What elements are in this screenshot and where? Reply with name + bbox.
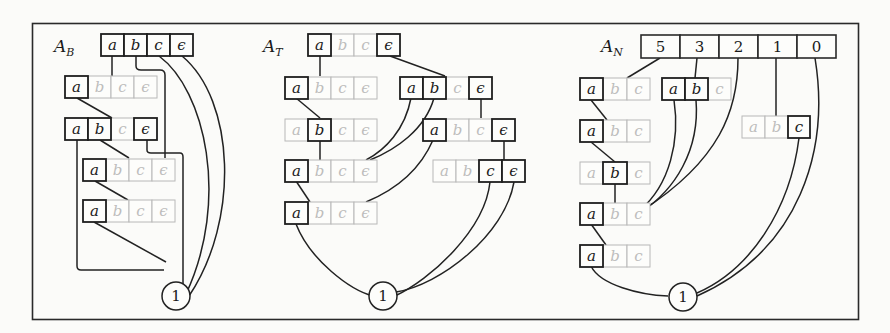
svg-text:5: 5 [656, 38, 666, 56]
svg-text:b: b [315, 121, 325, 139]
svg-text:c: c [118, 120, 127, 138]
svg-text:a: a [292, 162, 301, 180]
svg-text:a: a [669, 80, 678, 98]
panel-ab: AB a b c ϵ b c ϵ a c a [52, 34, 225, 310]
svg-text:a: a [108, 36, 117, 54]
node-at-4: b c a ϵ [423, 119, 515, 141]
svg-text:1: 1 [171, 287, 181, 305]
svg-text:b: b [463, 162, 473, 180]
svg-text:ϵ: ϵ [476, 79, 485, 97]
svg-text:a: a [72, 78, 81, 96]
svg-text:2: 2 [734, 38, 744, 56]
node-ab-4: b c ϵ a [83, 200, 175, 222]
svg-text:c: c [338, 162, 347, 180]
node-ab-1: b c ϵ a [65, 76, 157, 98]
svg-text:a: a [407, 79, 416, 97]
svg-text:c: c [118, 78, 127, 96]
svg-text:ϵ: ϵ [361, 162, 370, 180]
svg-text:c: c [634, 80, 643, 98]
svg-text:b: b [95, 120, 105, 138]
node-an-1: b c a [580, 78, 650, 100]
panel-title-at: AT [261, 36, 284, 59]
svg-text:b: b [131, 36, 141, 54]
svg-text:a: a [292, 79, 301, 97]
sink-node-an: 1 [669, 283, 697, 311]
node-at-3: a c ϵ b [285, 119, 377, 141]
node-at-5: b c ϵ a [285, 160, 377, 182]
svg-text:c: c [486, 162, 495, 180]
svg-text:b: b [772, 118, 782, 136]
svg-text:a: a [440, 162, 449, 180]
svg-text:c: c [795, 118, 804, 136]
node-an-4: a b c [742, 116, 810, 138]
svg-text:c: c [715, 80, 724, 98]
svg-text:a: a [315, 36, 324, 54]
svg-text:b: b [610, 247, 620, 265]
svg-text:a: a [587, 247, 596, 265]
svg-text:a: a [587, 80, 596, 98]
svg-text:ϵ: ϵ [361, 79, 370, 97]
node-an-3: b c a [580, 120, 650, 142]
node-ab-3: b c ϵ a [83, 159, 175, 181]
svg-text:b: b [315, 162, 325, 180]
node-at-root: b c a ϵ [308, 34, 400, 56]
svg-text:ϵ: ϵ [361, 121, 370, 139]
node-an-root: 5 3 2 1 0 [641, 35, 836, 58]
svg-text:b: b [95, 78, 105, 96]
svg-text:c: c [136, 202, 145, 220]
svg-text:ϵ: ϵ [159, 202, 168, 220]
svg-text:b: b [610, 80, 620, 98]
svg-text:a: a [90, 202, 99, 220]
svg-text:a: a [587, 205, 596, 223]
panel-an: AN 5 3 2 1 0 b c a [580, 35, 836, 311]
node-at-2: c a b ϵ [400, 77, 492, 99]
svg-text:b: b [113, 202, 123, 220]
sink-node-ab: 1 [162, 282, 190, 310]
svg-text:a: a [749, 118, 758, 136]
node-an-6: b c a [580, 203, 650, 225]
node-at-6: a b c ϵ [433, 160, 525, 182]
svg-text:c: c [453, 79, 462, 97]
svg-text:0: 0 [812, 38, 822, 56]
node-an-7: b c a [580, 245, 650, 267]
svg-text:c: c [634, 164, 643, 182]
svg-text:b: b [430, 79, 440, 97]
panel-at: AT b c a ϵ b c ϵ a [261, 34, 525, 310]
svg-text:b: b [610, 122, 620, 140]
svg-text:ϵ: ϵ [177, 36, 186, 54]
svg-text:c: c [338, 121, 347, 139]
svg-text:1: 1 [773, 38, 783, 56]
svg-text:ϵ: ϵ [141, 120, 150, 138]
svg-text:1: 1 [678, 288, 688, 306]
node-an-2: c a b [662, 78, 731, 100]
node-ab-2: c a b ϵ [65, 118, 157, 140]
svg-text:c: c [634, 205, 643, 223]
svg-text:c: c [338, 204, 347, 222]
svg-text:ϵ: ϵ [509, 162, 518, 180]
svg-text:a: a [587, 122, 596, 140]
panel-title-ab: AB [52, 36, 74, 59]
svg-text:b: b [453, 121, 463, 139]
svg-text:c: c [476, 121, 485, 139]
svg-text:a: a [292, 121, 301, 139]
node-at-1: b c ϵ a [285, 77, 377, 99]
svg-text:ϵ: ϵ [384, 36, 393, 54]
node-ab-root: a b c ϵ [101, 34, 193, 56]
node-an-5: a c b [580, 162, 650, 184]
diagram-canvas: AB a b c ϵ b c ϵ a c a [0, 0, 890, 333]
svg-text:1: 1 [378, 287, 388, 305]
svg-text:ϵ: ϵ [499, 121, 508, 139]
svg-text:b: b [692, 80, 702, 98]
svg-text:ϵ: ϵ [141, 78, 150, 96]
svg-text:a: a [587, 164, 596, 182]
svg-text:c: c [634, 247, 643, 265]
svg-text:b: b [338, 36, 348, 54]
svg-text:b: b [610, 205, 620, 223]
svg-text:a: a [90, 161, 99, 179]
svg-text:c: c [361, 36, 370, 54]
svg-text:c: c [634, 122, 643, 140]
svg-text:b: b [610, 164, 620, 182]
svg-text:c: c [154, 36, 163, 54]
svg-text:b: b [113, 161, 123, 179]
svg-text:ϵ: ϵ [361, 204, 370, 222]
